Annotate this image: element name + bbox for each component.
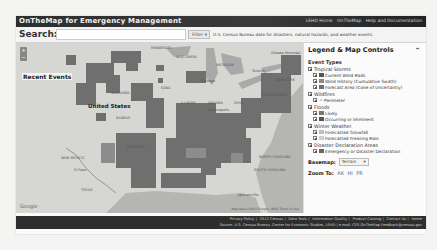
map-zoom-control[interactable]: + − [20, 47, 27, 61]
map-label-pennsylvania: PENNSYLVANIA [261, 93, 287, 97]
group-label: Winter Weather [314, 124, 352, 129]
swatch-icon [319, 85, 324, 89]
footer-source: Source: U.S. Census Bureau, Center for E… [220, 223, 422, 227]
browser-page: OnTheMap for Emergency Management LEHD H… [16, 16, 426, 234]
map-label-north-carolina: NORTH CAROLINA [259, 155, 290, 159]
item-emergency-declaration[interactable]: Emergency or Disaster Declaration [313, 148, 422, 154]
footer-link-2012-census[interactable]: 2012 Census [260, 217, 283, 221]
item-label: Forecasted Freezing Rain [325, 136, 379, 141]
collapse-icon[interactable]: ^ [415, 46, 420, 53]
filter-dropdown[interactable]: Filter ▾ [188, 30, 210, 39]
checkbox[interactable] [308, 67, 312, 71]
event-types-heading: Event Types [308, 59, 422, 65]
zoom-in-button[interactable]: + [20, 47, 27, 54]
group-label: Floods [314, 105, 330, 110]
checkbox[interactable] [313, 98, 317, 102]
item-label: Current Wind Radii [325, 73, 365, 78]
zoom-to-hi[interactable]: HI [348, 170, 353, 176]
map-credit[interactable]: Map data ©2015 Google, INEGI Terms of Us… [232, 207, 300, 211]
map-label-ottawa: Ottawa Montréal [271, 51, 300, 55]
map-label-michigan: MICHIGAN [216, 63, 234, 67]
map-label-toronto: Toronto [252, 69, 265, 73]
link-onthemap[interactable]: OnTheMap [337, 18, 361, 23]
map-label-el-paso: El Paso [74, 168, 86, 172]
item-label: Wind History (Cumulative Swath) [325, 79, 396, 84]
map-label-minnesota: MINNESOTA [151, 46, 172, 50]
app-title[interactable]: OnTheMap for Emergency Management [19, 17, 182, 25]
checkbox[interactable] [313, 85, 317, 89]
checkbox[interactable] [313, 149, 317, 153]
basemap-control: Basemap: Terrain ▾ [308, 158, 422, 166]
basemap-value: Terrain [342, 159, 357, 164]
zoom-out-button[interactable]: − [20, 54, 27, 61]
zoom-to-control: Zoom To: AK HI PR [308, 170, 422, 176]
map-label-wisconsin: WISCONSIN [176, 55, 196, 59]
recent-events-label[interactable]: Recent Events [22, 73, 72, 80]
map-label-kansas: KANSAS [116, 116, 130, 120]
top-links: LEHD Home OnTheMap Help and Documentatio… [303, 18, 422, 23]
item-label: Forecast Area (Cone of Uncertainty) [325, 85, 402, 90]
map-label-nebraska: NEBRASKA [111, 91, 130, 95]
chevron-down-icon: ▾ [205, 31, 207, 38]
checkbox[interactable] [313, 73, 317, 77]
footer-link-contact[interactable]: Contact Us [386, 217, 406, 221]
zoom-to-pr[interactable]: PR [356, 170, 363, 176]
item-perimeter[interactable]: ♨ Perimeter [313, 97, 422, 103]
footer-links: Privacy Policy| 2012 Census| Data Tools|… [230, 217, 422, 221]
swatch-icon [319, 149, 324, 153]
zoom-to-ak[interactable]: AK [337, 170, 344, 176]
link-lehd-home[interactable]: LEHD Home [306, 18, 333, 23]
checkbox[interactable] [308, 124, 312, 128]
map-label-jacksonville: Jacksonville [238, 193, 258, 197]
checkbox[interactable] [313, 136, 317, 140]
swatch-icon [319, 117, 324, 121]
swatch-icon [319, 136, 324, 140]
basemap-label: Basemap: [308, 159, 336, 165]
map-label-south-carolina: SOUTH CAROLINA [254, 168, 285, 172]
search-description: U.S. Census Bureau data for disasters, n… [213, 32, 373, 37]
footer-link-info-quality[interactable]: Information Quality [312, 217, 347, 221]
item-label: Perimeter [324, 98, 345, 103]
map-label-arkansas: ARKANSAS [126, 145, 145, 149]
checkbox[interactable] [308, 92, 312, 96]
footer-link-privacy[interactable]: Privacy Policy [230, 217, 255, 221]
legend-title-text: Legend & Map Controls [308, 46, 394, 54]
basemap-select[interactable]: Terrain ▾ [339, 158, 369, 166]
checkbox[interactable] [308, 105, 312, 109]
fire-icon: ♨ [319, 98, 323, 102]
item-occurring-imminent[interactable]: Occurring or Imminent [313, 116, 422, 122]
map-canvas[interactable]: + − Recent Events MINNESOTA WISCONSIN MI… [16, 43, 303, 213]
legend-title[interactable]: Legend & Map Controls ^ [308, 46, 422, 56]
checkbox[interactable] [308, 143, 312, 147]
item-forecast-area[interactable]: Forecast Area (Cone of Uncertainty) [313, 84, 422, 90]
swatch-icon [319, 79, 324, 83]
map-label-united-states: United States [88, 103, 130, 109]
search-input[interactable] [56, 29, 186, 40]
item-forecasted-freezing-rain[interactable]: Forecasted Freezing Rain [313, 135, 422, 141]
map-label-iowa: IOWA [161, 86, 170, 90]
swatch-icon [319, 111, 324, 115]
map-label-texas: TEXAS [81, 188, 92, 192]
search-label: Search: [19, 29, 57, 39]
group-label: Disaster Declaration Areas [314, 143, 378, 148]
google-logo: Google [20, 203, 38, 209]
filter-label: Filter [192, 32, 203, 37]
map-label-new-mexico: NEW MEXICO [61, 156, 84, 160]
footer-link-data-tools[interactable]: Data Tools [288, 217, 307, 221]
swatch-icon [319, 73, 324, 77]
map-label-illinois: ILLINOIS [181, 101, 196, 105]
footer-link-product-catalog[interactable]: Product Catalog [352, 217, 381, 221]
group-label: Wildfires [314, 92, 335, 97]
link-help-documentation[interactable]: Help and Documentation [366, 18, 422, 23]
footer: Privacy Policy| 2012 Census| Data Tools|… [16, 216, 426, 229]
checkbox[interactable] [313, 117, 317, 121]
item-label: Emergency or Disaster Declaration [325, 149, 400, 154]
top-bar: OnTheMap for Emergency Management LEHD H… [16, 16, 426, 27]
checkbox[interactable] [313, 79, 317, 83]
map-label-chicago: Chicago [201, 79, 215, 83]
footer-link-home[interactable]: Home [411, 217, 422, 221]
checkbox[interactable] [313, 130, 317, 134]
map-label-indiana: INDIANA [208, 101, 223, 105]
checkbox[interactable] [313, 111, 317, 115]
map-label-new-york: NEW YORK [276, 78, 295, 82]
